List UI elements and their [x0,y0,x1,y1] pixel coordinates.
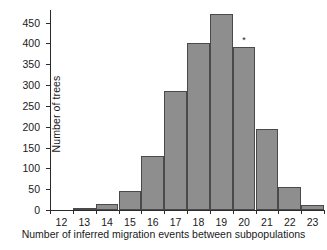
histogram-bar [141,156,164,210]
y-tick-label: 250 [22,100,40,112]
x-tick-label: 21 [261,216,273,228]
x-tick [301,210,302,214]
asterisk-marker: * [242,36,246,45]
histogram-bar [210,14,233,210]
histogram-bar [187,43,210,210]
x-tick-label: 13 [78,216,90,228]
x-tick-label: 19 [215,216,227,228]
x-tick-label: 15 [124,216,136,228]
x-tick-label: 20 [238,216,250,228]
x-tick [324,210,325,214]
x-tick [256,210,257,214]
y-tick-label: 150 [22,142,40,154]
histogram-bar [164,91,187,210]
histogram-bar [301,205,324,210]
histogram-bar [233,47,256,210]
x-tick [96,210,97,214]
x-tick-label: 23 [307,216,319,228]
y-tick-label: 300 [22,79,40,91]
y-tick-label: 400 [22,37,40,49]
histogram-figure: Number of trees 050100150200250300350400… [0,0,327,250]
x-tick [141,210,142,214]
x-tick [119,210,120,214]
x-tick-label: 12 [56,216,68,228]
x-tick [50,210,51,214]
x-tick [210,210,211,214]
histogram-bar [278,187,301,210]
y-tick-label: 200 [22,121,40,133]
x-tick-label: 22 [284,216,296,228]
x-tick [164,210,165,214]
y-tick-label: 100 [22,162,40,174]
x-tick [73,210,74,214]
y-tick-label: 350 [22,58,40,70]
bar-series [50,10,324,210]
x-tick [233,210,234,214]
x-axis-title: Number of inferred migration events betw… [0,228,327,240]
x-tick [278,210,279,214]
plot-area: 050100150200250300350400450 121314151617… [50,10,324,210]
histogram-bar [119,191,142,210]
x-tick-label: 18 [193,216,205,228]
x-tick-label: 16 [147,216,159,228]
histogram-bar [73,208,96,211]
x-tick-label: 17 [170,216,182,228]
y-tick-label: 450 [22,17,40,29]
x-tick-label: 14 [101,216,113,228]
x-tick [187,210,188,214]
histogram-bar [96,204,119,210]
histogram-bar [256,129,279,210]
y-tick-label: 50 [28,183,40,195]
y-tick-label: 0 [34,204,40,216]
